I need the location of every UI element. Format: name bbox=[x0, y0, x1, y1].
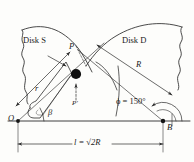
angle-arc-phi bbox=[152, 102, 182, 121]
label-point-p-prime: P′ bbox=[72, 100, 78, 107]
pointer-to-pivot bbox=[48, 56, 66, 66]
inner-arc-d bbox=[96, 62, 117, 90]
label-radius-r-large: R bbox=[136, 60, 141, 69]
angle-arc-phi-inner bbox=[157, 109, 176, 121]
label-angle-beta: β bbox=[48, 108, 52, 117]
label-origin-o: O bbox=[8, 114, 14, 123]
inner-arc-s bbox=[116, 66, 119, 116]
label-length-l: l = √2R bbox=[74, 138, 100, 147]
label-disk-d: Disk D bbox=[122, 36, 146, 45]
dimension-R bbox=[0, 0, 172, 95]
label-point-p: P bbox=[69, 42, 74, 51]
label-disk-s: Disk S bbox=[23, 36, 46, 45]
figure-canvas: Disk S Disk D P P′ O B r R β ϕ = 150° l … bbox=[0, 0, 194, 162]
label-radius-r-small: r bbox=[35, 84, 38, 93]
dashed-ray-p bbox=[76, 46, 86, 66]
label-point-b: B bbox=[167, 123, 172, 132]
disk-d-outline bbox=[86, 24, 182, 90]
pivot-node-p bbox=[71, 69, 81, 79]
ray-o-to-arc bbox=[18, 43, 104, 121]
label-angle-phi: ϕ = 150° bbox=[116, 97, 146, 106]
